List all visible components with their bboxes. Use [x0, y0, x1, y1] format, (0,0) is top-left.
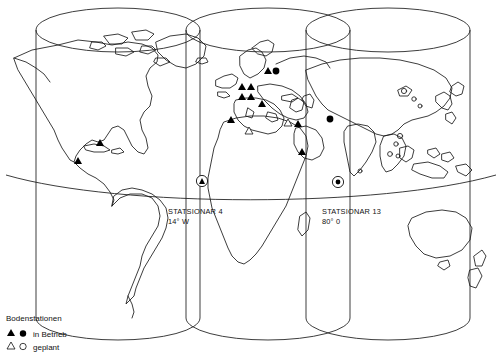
station-statsionar-13-name: STATSIONAR 13: [322, 207, 381, 216]
legend-label-in-operation: in Betrieb: [33, 330, 67, 339]
filled-circle-icon: [20, 330, 26, 336]
map-background: [0, 0, 501, 357]
open-circle-icon: [20, 343, 26, 349]
station-statsionar-13-dot-icon: [336, 180, 341, 185]
station-statsionar-4-longitude: 14° W: [168, 217, 189, 226]
station-statsionar-13-longitude: 80° 0: [322, 217, 340, 226]
world-map-figure: STATSIONAR 4 14° W STATSIONAR 13 80° 0 B…: [0, 0, 501, 357]
map-svg: STATSIONAR 4 14° W STATSIONAR 13 80° 0 B…: [0, 0, 501, 357]
legend-title: Bodenstationen: [6, 314, 62, 323]
station-statsionar-4-name: STATSIONAR 4: [168, 207, 223, 216]
legend-label-planned: geplant: [33, 343, 60, 352]
